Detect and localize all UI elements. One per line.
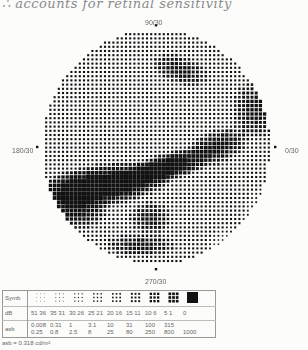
legend-db-cell: 20 16 <box>107 310 126 316</box>
greyscale-symbol-icon <box>34 292 47 303</box>
legend-asb-values: 0.0080.250.310.812.53.181025318010025031… <box>28 320 203 338</box>
axis-label-0: 0/30 <box>285 147 299 154</box>
legend-row-label-asb: asb <box>2 320 28 338</box>
legend-asb-cell: 0.0080.25 <box>31 322 50 336</box>
legend-row-label-db: dB <box>2 306 28 320</box>
greyscale-symbol-icon <box>186 292 199 303</box>
asb-value-upper: 10 <box>107 322 126 329</box>
greyscale-symbol-icon <box>72 292 85 303</box>
legend-asb-cell: 3180 <box>126 322 145 336</box>
legend-db-cell: 25 21 <box>88 310 107 316</box>
asb-value-upper: 31 <box>126 322 145 329</box>
legend-symbol-cell <box>31 292 50 304</box>
legend-symbol-cell <box>107 292 126 304</box>
greyscale-symbol-icon <box>91 292 104 303</box>
legend-symbol-cell <box>69 292 88 304</box>
legend-db-cell: 5 1 <box>164 310 183 316</box>
legend-asb-cell: 1025 <box>107 322 126 336</box>
legend-symbol-cell <box>183 292 202 304</box>
asb-value-lower: 25 <box>107 329 126 336</box>
asb-value-upper: 0.008 <box>31 322 50 329</box>
asb-value-upper: 100 <box>145 322 164 329</box>
asb-value-lower: 0.8 <box>50 329 69 336</box>
legend-db-values: 51 3635 3130 2625 2120 1615 1110 65 10 <box>28 306 203 320</box>
asb-value-lower: 800 <box>164 329 183 336</box>
legend-db-cell: 51 36 <box>31 310 50 316</box>
asb-value-lower: 250 <box>145 329 164 336</box>
greyscale-symbol-icon <box>129 292 142 303</box>
asb-value-upper: 315 <box>164 322 183 329</box>
greyscale-symbol-icon <box>148 292 161 303</box>
legend-symbol-cell <box>126 292 145 304</box>
asb-value-upper: 1 <box>69 322 88 329</box>
legend-symbols <box>28 290 203 306</box>
legend-db-cell: 15 11 <box>126 310 145 316</box>
greyscale-symbol-icon <box>110 292 123 303</box>
asb-value-lower: 0.25 <box>31 329 50 336</box>
visual-field-greyscale <box>0 0 308 290</box>
asb-value-lower: 80 <box>126 329 145 336</box>
legend-asb-cell: 1000 <box>183 329 202 336</box>
legend-row-label-symbol: Symb <box>2 290 28 306</box>
legend-db-cell: 0 <box>183 310 202 316</box>
legend-symbol-cell <box>88 292 107 304</box>
legend-asb-cell: 0.310.8 <box>50 322 69 336</box>
legend-symbol-cell <box>145 292 164 304</box>
axis-label-180: 180/30 <box>12 147 33 154</box>
legend-symbol-cell <box>164 292 183 304</box>
legend-db-cell: 10 6 <box>145 310 164 316</box>
asb-footnote: asb = 0.318 cd/m² <box>2 340 50 346</box>
asb-value-upper: 0.31 <box>50 322 69 329</box>
legend-asb-cell: 3.18 <box>88 322 107 336</box>
asb-value-lower: 8 <box>88 329 107 336</box>
asb-value-lower: 2.5 <box>69 329 88 336</box>
legend-table: Symb dB 51 3635 3130 2625 2120 1615 1110… <box>2 290 202 338</box>
axis-label-90: 90/30 <box>145 19 163 26</box>
legend-asb-cell: 315800 <box>164 322 183 336</box>
greyscale-symbol-icon <box>53 292 66 303</box>
legend-symbol-cell <box>50 292 69 304</box>
legend-asb-cell: 100250 <box>145 322 164 336</box>
asb-value-upper: 1000 <box>183 329 202 336</box>
axis-label-270: 270/30 <box>145 278 166 285</box>
legend-db-cell: 30 26 <box>69 310 88 316</box>
asb-value-upper: 3.1 <box>88 322 107 329</box>
greyscale-symbol-icon <box>167 292 180 303</box>
legend-asb-cell: 12.5 <box>69 322 88 336</box>
legend-db-cell: 35 31 <box>50 310 69 316</box>
